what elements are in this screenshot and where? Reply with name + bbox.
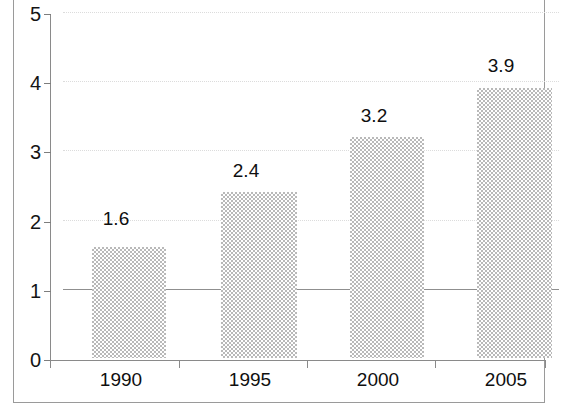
x-tick-2 <box>307 360 308 368</box>
y-tick-1 <box>44 291 51 292</box>
x-tick-4 <box>545 360 546 368</box>
bar-2000[interactable] <box>350 137 424 358</box>
value-label-2005: 3.9 <box>471 56 531 75</box>
category-label-1995: 1995 <box>205 370 295 389</box>
y-tick-4 <box>44 83 51 84</box>
gridline-y-5 <box>63 12 559 14</box>
gridline-y-4 <box>63 81 559 83</box>
category-label-2005: 2005 <box>461 370 551 389</box>
y-axis-tick-labels: 5 4 3 2 1 0 <box>0 0 41 415</box>
value-label-2000: 3.2 <box>344 106 404 125</box>
x-tick-1 <box>179 360 180 368</box>
x-axis-line <box>50 360 546 361</box>
y-tick-label-2: 2 <box>7 212 41 232</box>
y-axis-line <box>50 14 51 361</box>
y-tick-label-3: 3 <box>7 142 41 162</box>
y-tick-label-5: 5 <box>7 4 41 24</box>
y-tick-2 <box>44 222 51 223</box>
y-tick-5 <box>44 14 51 15</box>
category-label-2000: 2000 <box>333 370 423 389</box>
y-tick-label-0: 0 <box>7 350 41 370</box>
y-tick-label-4: 4 <box>7 73 41 93</box>
x-tick-0 <box>50 360 51 368</box>
category-label-1990: 1990 <box>76 370 166 389</box>
x-tick-3 <box>435 360 436 368</box>
y-tick-label-1: 1 <box>7 281 41 301</box>
y-tick-3 <box>44 152 51 153</box>
bar-1990[interactable] <box>92 247 166 358</box>
chart-frame: 1.6 2.4 3.2 3.9 1990 1995 2000 2005 <box>13 0 545 403</box>
bar-2005[interactable] <box>477 88 552 358</box>
bar-1995[interactable] <box>221 192 297 358</box>
value-label-1995: 2.4 <box>216 161 276 180</box>
value-label-1990: 1.6 <box>86 209 146 228</box>
